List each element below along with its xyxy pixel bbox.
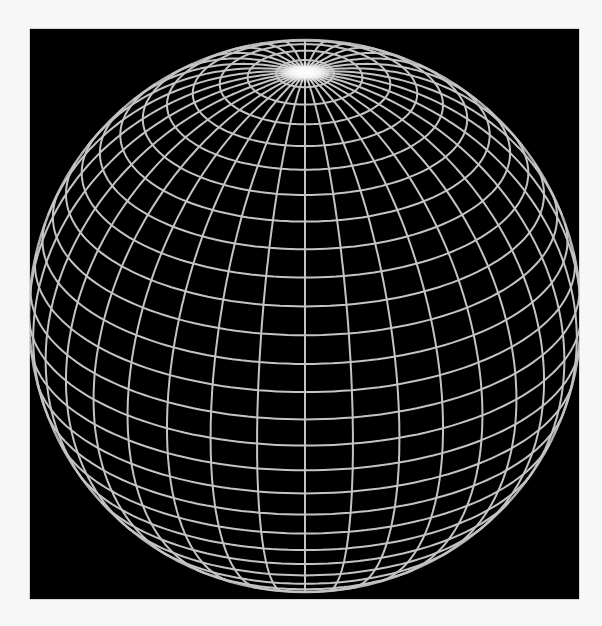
- longitude-lines: [29, 40, 581, 592]
- wireframe-globe: [0, 0, 602, 626]
- north-pole-highlight: [275, 61, 335, 83]
- figure-description: Wireframe globe with latitude and longit…: [0, 0, 1, 1]
